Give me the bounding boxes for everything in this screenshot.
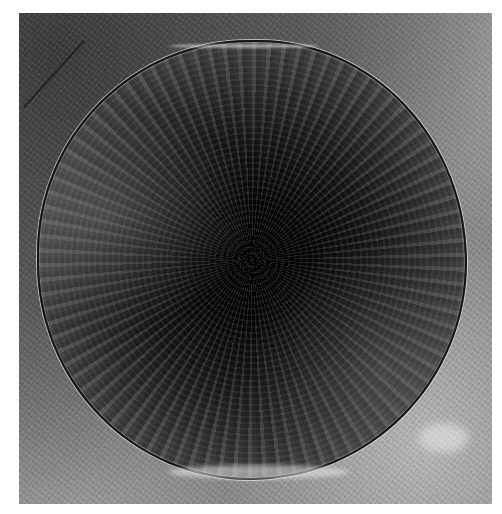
circular-structure — [37, 40, 467, 480]
top-edge-highlight — [169, 44, 319, 48]
radial-texture — [39, 42, 465, 478]
micrograph-image — [19, 13, 492, 504]
bright-patch — [419, 423, 469, 453]
bottom-edge-highlight — [169, 465, 349, 479]
